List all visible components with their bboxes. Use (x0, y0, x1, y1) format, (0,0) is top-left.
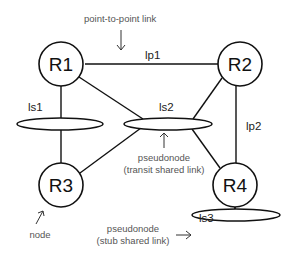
pseudonode-ls1 (17, 118, 103, 130)
arrow-up-right-icon (36, 211, 44, 224)
node-label-r2: R2 (228, 54, 252, 75)
pseudonode-ls2 (124, 118, 212, 130)
label-ls1: ls1 (28, 101, 43, 113)
arrow-right-icon (176, 231, 191, 239)
label-ls2: ls2 (159, 101, 174, 113)
annotation-transit-line1: pseudonode (138, 152, 190, 163)
node-r3: R3 (39, 163, 83, 207)
annotation-stub-line2: (stub shared link) (97, 235, 170, 246)
node-r4: R4 (213, 163, 257, 207)
node-label-r4: R4 (223, 175, 248, 196)
node-label-r3: R3 (49, 175, 73, 196)
node-r2: R2 (218, 42, 262, 86)
label-ls3: ls3 (199, 212, 214, 224)
arrow-down-icon (117, 30, 125, 50)
annotation-node: node (29, 229, 50, 240)
label-lp2: lp2 (246, 120, 261, 132)
arrow-up-icon (160, 133, 168, 148)
network-diagram: R1 R2 R3 R4 lp1 lp2 ls1 ls2 ls3 point-to… (0, 0, 294, 258)
link-r1-ls2 (79, 77, 143, 119)
link-r4-ls2 (192, 129, 220, 168)
link-r2-ls2 (193, 78, 222, 119)
annotation-stub-line1: pseudonode (107, 223, 159, 234)
label-lp1: lp1 (145, 49, 160, 61)
node-label-r1: R1 (49, 54, 73, 75)
annotation-point-to-point: point-to-point link (84, 13, 157, 24)
annotation-transit-line2: (transit shared link) (124, 164, 205, 175)
node-r1: R1 (39, 42, 83, 86)
